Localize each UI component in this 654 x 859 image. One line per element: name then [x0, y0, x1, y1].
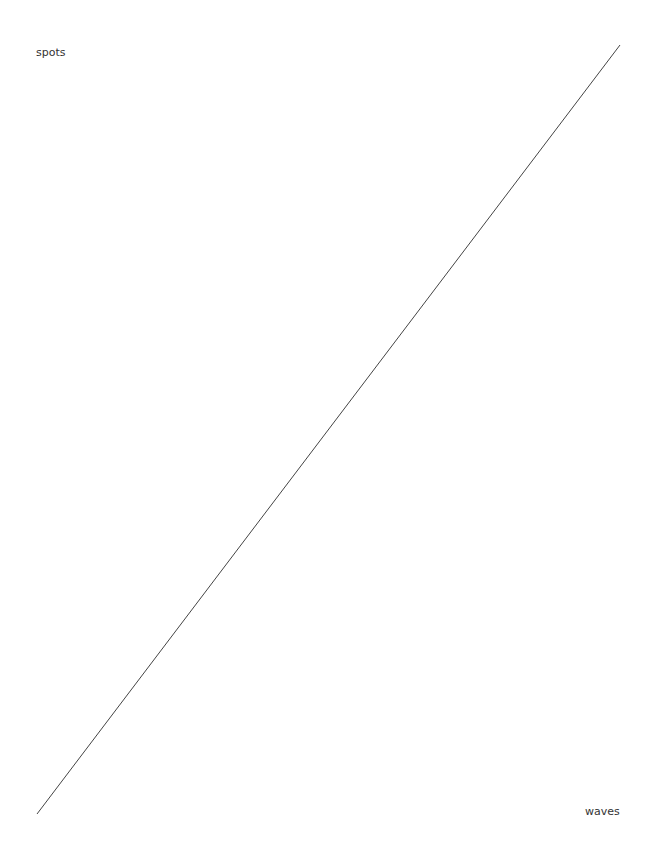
- label-spots: spots: [36, 46, 66, 59]
- diagonal-line-canvas: [0, 0, 654, 859]
- diagonal-line: [37, 45, 620, 814]
- label-waves: waves: [585, 805, 620, 818]
